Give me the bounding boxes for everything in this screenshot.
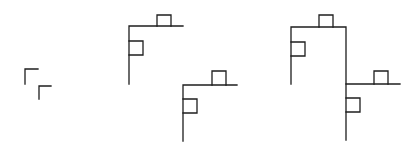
figure-stage-1 [25,69,51,99]
stage-2-stroke [129,41,143,55]
figure-stage-3 [291,15,400,140]
diagram-svg [0,0,420,148]
diagram-canvas [0,0,420,148]
stage-1-stroke [39,86,51,99]
stage-1-stroke [25,69,38,84]
stage-3-stroke [346,98,360,112]
figure-stage-2 [129,15,237,141]
stage-2-stroke [183,99,197,113]
stage-3-stroke [319,15,333,27]
stage-3-stroke [291,27,346,140]
stage-3-stroke [374,71,388,84]
stage-2-stroke [157,15,171,26]
stage-2-stroke [212,71,226,85]
stage-3-stroke [291,42,305,56]
